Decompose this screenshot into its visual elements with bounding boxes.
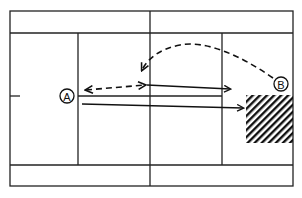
player-a-label: A (63, 91, 71, 103)
drive-arrow-1 (147, 85, 230, 89)
player-a-marker: A (60, 89, 74, 103)
tennis-court-diagram: A B (0, 0, 302, 198)
target-zone-hatched (246, 95, 293, 143)
shots (82, 44, 273, 108)
drive-arrow-2 (82, 104, 243, 108)
volley-exchange-arrow (86, 85, 145, 90)
lob-arrow (142, 44, 273, 78)
player-b-label: B (277, 79, 284, 91)
player-b-marker: B (274, 77, 288, 91)
